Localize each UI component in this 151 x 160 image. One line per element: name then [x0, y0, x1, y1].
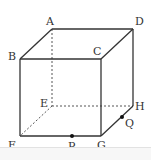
vertex-label-H: H: [135, 100, 145, 113]
vertex-label-E: E: [40, 97, 48, 110]
edge-AB: [20, 29, 52, 59]
edge-CD: [101, 29, 133, 59]
vertex-label-A: A: [45, 15, 55, 28]
vertex-label-B: B: [8, 50, 16, 63]
vertex-label-D: D: [135, 15, 144, 28]
edge-EF: [20, 106, 52, 136]
point-P-marker: [70, 134, 74, 138]
point-Q-marker: [120, 115, 124, 119]
bottom-strip: [0, 147, 151, 160]
vertex-label-C: C: [93, 45, 101, 58]
point-label-Q: Q: [125, 117, 134, 130]
cube-diagram: A B C D E F G H P Q: [0, 0, 151, 160]
